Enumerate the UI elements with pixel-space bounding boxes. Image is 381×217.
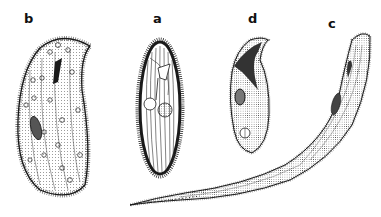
ciliates-illustration: b a d c	[0, 0, 381, 217]
organism-d	[230, 38, 269, 153]
label-a: a	[153, 11, 162, 26]
label-c: c	[328, 16, 336, 31]
label-b: b	[24, 11, 33, 26]
label-d: d	[248, 11, 257, 26]
organism-a	[137, 39, 183, 177]
organism-b	[18, 38, 90, 194]
